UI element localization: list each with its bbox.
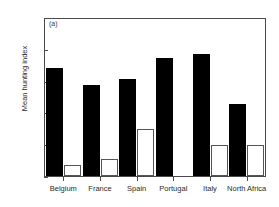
bar-group-belgium	[46, 19, 81, 176]
bar-open-north-africa	[247, 145, 264, 176]
bar-solid-france	[83, 85, 100, 176]
bar-solid-spain	[119, 79, 136, 176]
x-tick-mark-north-africa	[247, 177, 248, 181]
x-tick-label-france: France	[88, 184, 111, 193]
bar-solid-north-africa	[229, 104, 246, 176]
y-axis-label: Mean hunting index	[20, 9, 29, 149]
x-tick-mark-spain	[137, 177, 138, 181]
figure: (a) Mean hunting index 100 80 60 40 20 0…	[0, 0, 279, 207]
x-tick-label-north-africa: North Africa	[227, 184, 266, 193]
bar-solid-belgium	[46, 68, 63, 176]
x-tick-mark-italy	[210, 177, 211, 181]
bar-solid-portugal	[156, 58, 173, 176]
y-tick-mark-0	[44, 177, 48, 178]
bar-group-france	[83, 19, 118, 176]
bar-open-spain	[137, 129, 154, 176]
x-tick-label-belgium: Belgium	[50, 184, 77, 193]
x-tick-mark-belgium	[63, 177, 64, 181]
x-tick-mark-portugal	[173, 177, 174, 181]
x-tick-label-portugal: Portugal	[159, 184, 187, 193]
x-tick-label-spain: Spain	[127, 184, 146, 193]
bar-group-spain	[119, 19, 154, 176]
bar-open-belgium	[64, 165, 81, 176]
bar-open-france	[101, 159, 118, 176]
bar-group-italy	[193, 19, 228, 176]
bars-container	[45, 19, 265, 176]
x-tick-label-italy: Italy	[203, 184, 217, 193]
x-tick-mark-france	[100, 177, 101, 181]
bar-open-italy	[211, 145, 228, 176]
bar-group-portugal	[156, 19, 191, 176]
bar-group-north-africa	[229, 19, 264, 176]
bar-solid-italy	[193, 54, 210, 176]
